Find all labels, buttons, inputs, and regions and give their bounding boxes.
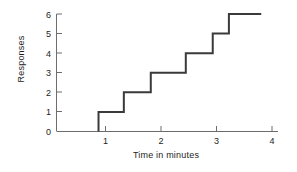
x-axis-ticks — [106, 126, 273, 132]
y-tick-label-5: 5 — [46, 29, 51, 39]
cumulative-record-chart: Responses Time in minutes 0 1 2 3 4 5 6 — [0, 0, 297, 172]
x-tick-label-2: 2 — [158, 136, 163, 146]
y-tick-label-2: 2 — [46, 88, 51, 98]
y-tick-label-1: 1 — [46, 107, 51, 117]
y-tick-label-0: 0 — [46, 127, 51, 137]
x-axis-tick-labels: 1 2 3 4 — [103, 136, 275, 146]
plot-area: 0 1 2 3 4 5 6 1 2 3 4 — [0, 0, 297, 172]
x-tick-label-4: 4 — [269, 136, 274, 146]
y-tick-label-3: 3 — [46, 68, 51, 78]
y-axis-ticks — [57, 14, 63, 112]
y-axis-tick-labels: 0 1 2 3 4 5 6 — [46, 10, 51, 137]
x-tick-label-1: 1 — [103, 136, 108, 146]
y-tick-label-4: 4 — [46, 49, 51, 59]
x-tick-label-3: 3 — [214, 136, 219, 146]
y-tick-label-6: 6 — [46, 10, 51, 20]
cumulative-response-step-line — [99, 14, 262, 132]
